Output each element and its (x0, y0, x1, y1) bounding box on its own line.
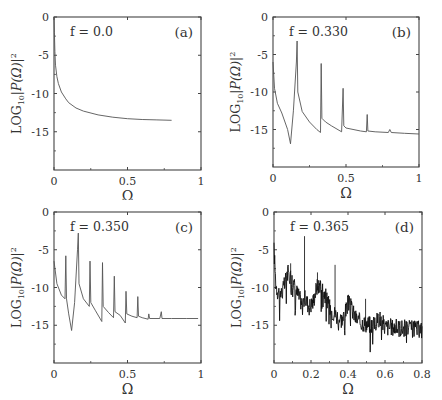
y-tick-label: -5 (38, 244, 49, 257)
spectrum-line (54, 233, 198, 330)
spectrum-line (273, 41, 419, 144)
y-tick-label: 0 (261, 11, 268, 24)
x-axis-label: Ω (122, 381, 134, 397)
panel-a: 0-5-10-1500.51ΩLOG10|P(Ω)|2f = 0.0(a) (0, 0, 221, 200)
y-tick-label: 0 (262, 206, 269, 219)
y-tick-label: -10 (251, 282, 269, 295)
chart-b: 0-5-10-1500.51ΩLOG10|P(Ω)|2f = 0.330(b) (221, 0, 442, 200)
panel-label: (a) (174, 24, 193, 40)
y-axis-label: LOG10|P(Ω)|2 (9, 247, 26, 328)
x-axis-label: Ω (342, 381, 354, 397)
panel-c: 0-5-10-1500.51ΩLOG10|P(Ω)|2f = 0.350(c) (0, 200, 221, 400)
x-tick-label: 0.4 (339, 368, 357, 381)
x-tick-label: 0.5 (337, 172, 355, 185)
x-tick-label: 0.8 (413, 368, 431, 381)
y-tick-label: -10 (250, 86, 268, 99)
spectrum-line (274, 243, 422, 352)
y-tick-label: -15 (31, 319, 49, 332)
x-tick-label: 0.5 (119, 175, 137, 188)
x-tick-label: 0 (51, 175, 58, 188)
parameter-annotation: f = 0.350 (70, 219, 129, 234)
y-tick-label: 0 (42, 206, 49, 219)
panel-label: (b) (392, 24, 411, 40)
x-tick-label: 1 (198, 175, 205, 188)
y-tick-label: -15 (251, 319, 269, 332)
y-tick-label: -15 (31, 126, 49, 139)
chart-d: 0-5-10-1500.20.40.60.8ΩLOG10|P(Ω)|2f = 0… (221, 200, 442, 400)
y-tick-label: -5 (258, 244, 269, 257)
x-tick-label: 0 (51, 368, 58, 381)
x-tick-label: 0.2 (302, 368, 320, 381)
x-axis-label: Ω (340, 185, 352, 200)
y-tick-label: 0 (42, 11, 49, 24)
y-axis-label: LOG10|P(Ω)|2 (229, 247, 246, 328)
chart-c: 0-5-10-1500.51ΩLOG10|P(Ω)|2f = 0.350(c) (0, 200, 221, 400)
y-tick-label: -5 (38, 49, 49, 62)
panel-b: 0-5-10-1500.51ΩLOG10|P(Ω)|2f = 0.330(b) (221, 0, 442, 200)
x-tick-label: 0.5 (119, 368, 137, 381)
x-tick-label: 0.6 (376, 368, 394, 381)
y-tick-label: -5 (257, 49, 268, 62)
panel-label: (c) (175, 219, 193, 235)
y-tick-label: -10 (31, 88, 49, 101)
panel-label: (d) (395, 219, 414, 235)
x-tick-label: 1 (416, 172, 423, 185)
y-tick-label: -10 (31, 282, 49, 295)
parameter-annotation: f = 0.330 (289, 24, 348, 39)
x-tick-label: 0 (270, 172, 277, 185)
x-tick-label: 0 (271, 368, 278, 381)
y-tick-label: -15 (250, 124, 268, 137)
y-axis-label: LOG10|P(Ω)|2 (228, 52, 245, 133)
x-tick-label: 1 (198, 368, 205, 381)
x-axis-label: Ω (122, 188, 134, 200)
chart-a: 0-5-10-1500.51ΩLOG10|P(Ω)|2f = 0.0(a) (0, 0, 221, 200)
parameter-annotation: f = 0.0 (70, 24, 113, 39)
panel-d: 0-5-10-1500.20.40.60.8ΩLOG10|P(Ω)|2f = 0… (221, 200, 442, 400)
y-axis-label: LOG10|P(Ω)|2 (9, 53, 26, 134)
parameter-annotation: f = 0.365 (290, 219, 349, 234)
